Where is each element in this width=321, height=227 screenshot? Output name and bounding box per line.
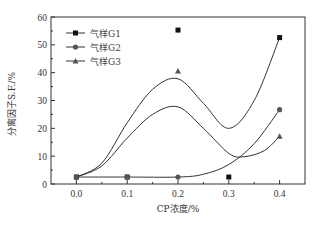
x-tick-label: 0.1 <box>121 189 133 199</box>
x-tick-label: 0.3 <box>223 189 235 199</box>
x-tick-label: 0.4 <box>274 189 286 199</box>
x-axis-label: CP浓度/% <box>157 203 200 214</box>
circle-marker-icon <box>175 174 180 179</box>
y-tick-label: 10 <box>38 152 48 162</box>
square-legend-icon <box>73 31 78 36</box>
y-tick-label: 50 <box>38 40 48 50</box>
y-tick-label: 0 <box>42 180 47 190</box>
legend-label: 气样G2 <box>90 42 121 53</box>
square-marker-icon <box>226 175 231 180</box>
axis-ticks: 0.00.10.20.30.40102030405060 <box>38 13 286 200</box>
y-tick-label: 30 <box>38 96 48 106</box>
x-tick-label: 0.0 <box>70 189 82 199</box>
chart: 0.00.10.20.30.40102030405060 气样G1气样G2气样G… <box>0 0 321 227</box>
y-axis-label: 分离因子S.F./% <box>6 72 17 136</box>
circle-marker-icon <box>277 107 282 112</box>
lower-fit-curve <box>76 110 279 178</box>
legend-label: 气样G3 <box>90 56 121 67</box>
y-tick-label: 20 <box>38 124 48 134</box>
y-tick-label: 40 <box>38 68 48 78</box>
circle-legend-icon <box>73 44 78 49</box>
x-tick-label: 0.2 <box>172 189 184 199</box>
circle-marker-icon <box>125 174 130 179</box>
square-marker-icon <box>277 35 282 40</box>
legend-label: 气样G1 <box>90 28 121 39</box>
circle-marker-icon <box>74 174 79 179</box>
square-marker-icon <box>176 28 181 33</box>
legend: 气样G1气样G2气样G3 <box>66 28 121 67</box>
triangle-marker-icon <box>175 68 181 74</box>
triangle-marker-icon <box>277 133 283 139</box>
y-tick-label: 60 <box>38 13 48 23</box>
middle-fit-curve <box>76 106 279 177</box>
